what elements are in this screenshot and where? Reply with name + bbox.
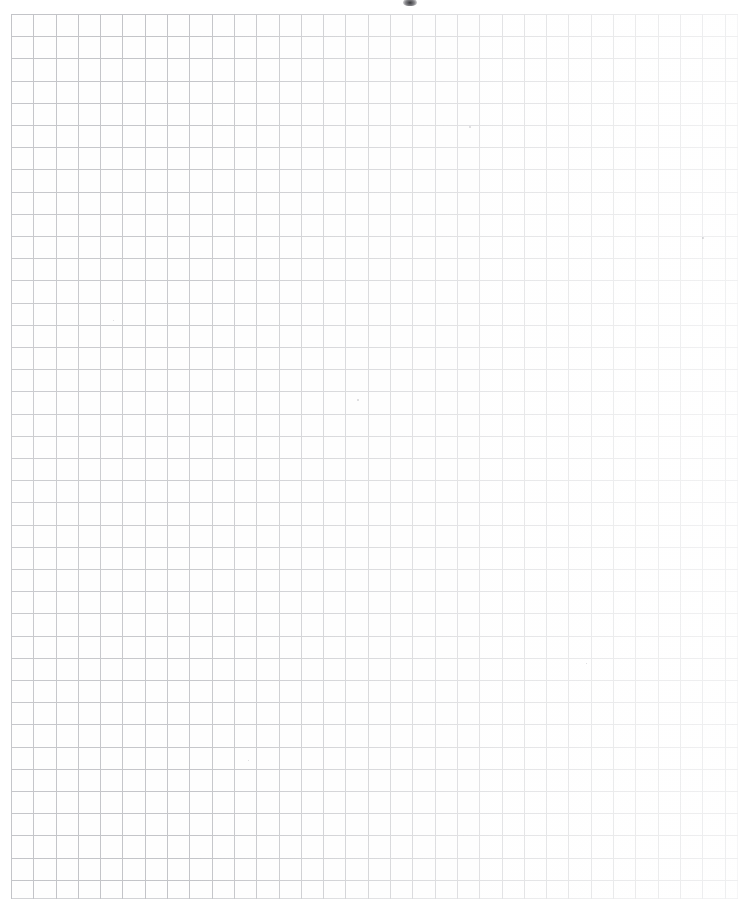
grid-horizontal-rules [0, 14, 751, 899]
grid-clip-region [0, 0, 751, 912]
grid-edge-rule-bottom [0, 898, 751, 899]
grid-edge-rule-right [737, 0, 738, 912]
graph-paper-page: Blank scanned graph paper, 33 by 40 squa… [0, 0, 751, 912]
grid-layer [0, 0, 751, 912]
